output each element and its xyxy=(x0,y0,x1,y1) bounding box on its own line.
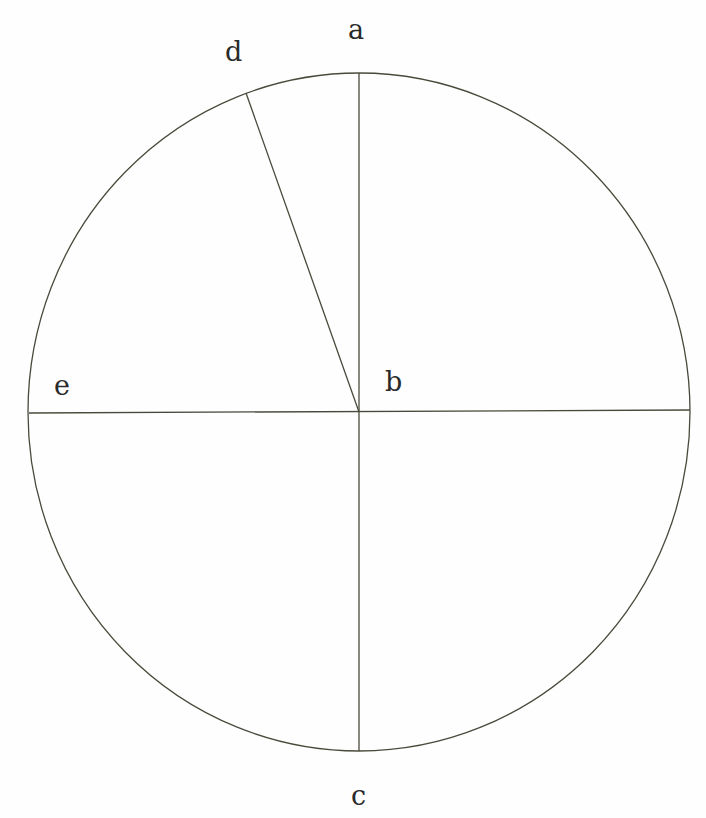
label-e: e xyxy=(54,372,70,399)
label-c: c xyxy=(351,782,366,809)
circle-diagram xyxy=(0,0,706,818)
label-a: a xyxy=(348,16,364,43)
diagram-canvas: a b c d e xyxy=(0,0,706,818)
label-b: b xyxy=(385,368,402,395)
label-d: d xyxy=(225,38,242,65)
radius-b-d xyxy=(246,93,359,412)
